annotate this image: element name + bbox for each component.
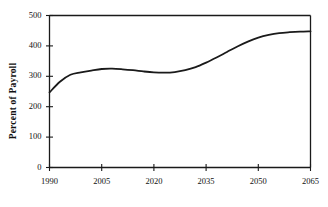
y-tick-label: 300 [12, 70, 42, 80]
x-tick-label: 2065 [291, 176, 328, 186]
y-tick-label: 100 [12, 131, 42, 141]
y-tick-label: 0 [12, 162, 42, 172]
y-tick-label: 400 [12, 40, 42, 50]
x-tick-label: 2050 [238, 176, 278, 186]
chart-container: Percent of Payroll 0100200300400500 1990… [0, 0, 328, 207]
x-tick-label: 1990 [30, 176, 70, 186]
y-tick-label: 500 [12, 10, 42, 20]
x-tick-label: 2005 [82, 176, 122, 186]
y-tick-label: 200 [12, 101, 42, 111]
x-tick-label: 2020 [134, 176, 174, 186]
data-line-series [50, 31, 311, 92]
x-tick-label: 2035 [186, 176, 226, 186]
